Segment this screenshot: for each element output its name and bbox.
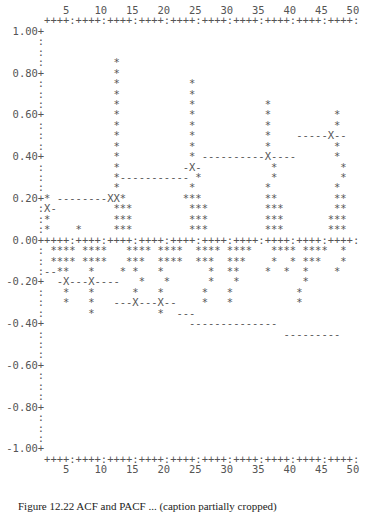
- plot-row: :: [0, 433, 359, 443]
- plot-row: :: [0, 339, 359, 349]
- plot-row: :: [0, 381, 359, 391]
- plot-row: -0.40+ --------------: [0, 318, 359, 328]
- plot-row: :: [0, 370, 359, 380]
- plot-row: :: [0, 423, 359, 433]
- plot-row: 1.00+: [0, 26, 359, 36]
- plot-row: :: [0, 391, 359, 401]
- plot-row: : **** **** **** **** **** **** **** ***…: [0, 245, 359, 255]
- x-axis-bottom-labels: 5 10 15 20 25 30 35 40 45 50: [0, 464, 359, 474]
- plot-row: -0.80+: [0, 402, 359, 412]
- plot-row: : * *: [0, 78, 359, 88]
- plot-row: -0.60+: [0, 360, 359, 370]
- x-axis-top: ++++:++++:++++:++++:++++:++++:++++:++++:…: [0, 15, 359, 25]
- plot-row: :: [0, 412, 359, 422]
- plot-row: : ---------: [0, 329, 359, 339]
- figure-caption: Figure 12.22 ACF and PACF ... (caption p…: [18, 500, 277, 512]
- plot-row: :: [0, 36, 359, 46]
- ascii-plot: 5 10 15 20 25 30 35 40 45 50 ++++:++++:+…: [0, 5, 359, 475]
- plot-row: :: [0, 349, 359, 359]
- plot-row: 0.40+ * * ----------X---- *: [0, 151, 359, 161]
